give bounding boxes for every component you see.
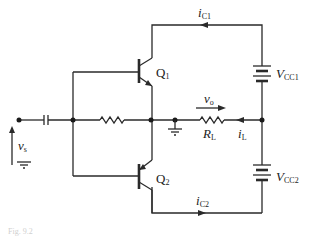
- load-resistor-icon: [200, 117, 224, 123]
- il-label: iL: [238, 126, 247, 142]
- top-wire-ic1: [152, 22, 262, 66]
- emitter-node-dot: [149, 118, 154, 123]
- bias-resistor-icon: [100, 117, 124, 123]
- vo-label: vo: [204, 91, 214, 107]
- circuit-diagram: iC1 VCC1 VCC2 iC2 Q1: [0, 0, 310, 239]
- ic2-arrow-icon: [198, 210, 206, 216]
- q2-label: Q2: [156, 171, 169, 187]
- vcc1-label: VCC1: [276, 66, 299, 82]
- q2-pnp-transistor-icon: [73, 120, 152, 213]
- ic2-label: iC2: [196, 193, 209, 209]
- q1-label: Q1: [156, 65, 169, 81]
- supply-node-dot: [260, 118, 265, 123]
- coupling-capacitor-icon: [44, 115, 48, 125]
- figure-caption: Fig. 9.2: [8, 227, 33, 236]
- vcc1-battery-icon: [253, 66, 271, 165]
- ground-icon: [168, 120, 182, 135]
- source-ground-icon: [17, 162, 31, 168]
- vs-label: vs: [18, 138, 27, 154]
- il-arrow-icon: [236, 117, 244, 123]
- q1-npn-transistor-icon: [73, 52, 152, 120]
- vcc2-battery-icon: [253, 165, 271, 213]
- source-node-dot: [17, 118, 22, 123]
- ic1-label: iC1: [198, 5, 211, 21]
- ic1-arrow-icon: [200, 22, 208, 28]
- rl-label: RL: [202, 126, 216, 142]
- base-node-dot: [71, 118, 76, 123]
- middle-wire: [19, 115, 262, 125]
- vs-arrow-icon: [9, 126, 15, 165]
- vcc2-label: VCC2: [276, 169, 299, 185]
